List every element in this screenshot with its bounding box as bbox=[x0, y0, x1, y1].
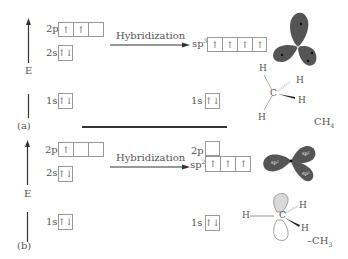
orbital-label-2p-hybrid-b: 2p bbox=[191, 146, 204, 156]
formula-ch3-sub: 3 bbox=[328, 241, 332, 248]
atom-h-3-a: H bbox=[298, 96, 306, 105]
orbital-cell: ↑↓ bbox=[59, 94, 72, 108]
formula-ch4-sub: 4 bbox=[330, 122, 334, 129]
orbital-box-1s-a: ↑↓ bbox=[58, 93, 73, 109]
formula-ch3-base: –CH bbox=[307, 235, 328, 246]
orbital-cell: ↑ bbox=[221, 157, 236, 171]
atom-c-a: C bbox=[270, 89, 277, 98]
formula-ch4-base: CH bbox=[314, 116, 330, 127]
atom-h-3-b: H bbox=[301, 224, 309, 233]
atom-h-1-a: H bbox=[259, 64, 267, 73]
orbital-box-2p-a: ↑ ↑ bbox=[58, 22, 104, 37]
orbital-label-1s-b: 1s bbox=[46, 217, 58, 227]
orbital-label-sp3: sp3 bbox=[192, 39, 207, 49]
formula-ch4: CH4 bbox=[314, 117, 334, 127]
hybridization-arrow-a bbox=[110, 42, 190, 48]
sp3-orbital-lobes-icon bbox=[270, 10, 348, 70]
orbital-cell: ↑ bbox=[74, 23, 89, 36]
orbital-box-2p-hybrid-b bbox=[205, 141, 220, 156]
orbital-label-sp2: sp2 bbox=[190, 160, 205, 170]
energy-label-b: E bbox=[24, 189, 31, 199]
orbital-cell bbox=[74, 143, 89, 156]
sp3-label-base: sp bbox=[192, 38, 204, 49]
hybridization-arrow-b bbox=[110, 164, 190, 170]
sp2-label-base: sp bbox=[190, 159, 202, 170]
orbital-cell: ↑ bbox=[236, 157, 251, 171]
orbital-box-sp2: ↑ ↑ ↑ bbox=[205, 156, 251, 172]
atom-c-b: C bbox=[279, 211, 286, 220]
orbital-cell: ↑↓ bbox=[206, 216, 219, 230]
orbital-cell: ↑ bbox=[206, 157, 221, 171]
orbital-label-1s-a: 1s bbox=[46, 96, 58, 106]
sp2-orbital-lobes-icon: sp² sp² sp² bbox=[258, 140, 348, 190]
sp2-lobe-label: sp² bbox=[302, 150, 310, 157]
orbital-label-2s-b: 2s bbox=[46, 168, 58, 178]
hybridization-label-b: Hybridization bbox=[116, 153, 185, 163]
panel-label-a: (a) bbox=[17, 121, 31, 131]
orbital-cell: ↑↓ bbox=[59, 167, 72, 181]
orbital-label-2s-a: 2s bbox=[46, 48, 58, 58]
orbital-label-2p-a: 2p bbox=[46, 24, 59, 34]
orbital-box-2p-b: ↑ bbox=[58, 142, 104, 157]
sp2-lobe-label: sp² bbox=[271, 159, 279, 166]
orbital-cell: ↑ bbox=[223, 38, 238, 51]
orbital-box-2s-a: ↑↓ bbox=[58, 45, 73, 61]
panel-divider bbox=[82, 126, 227, 128]
atom-h-2-a: H bbox=[296, 76, 304, 85]
atom-h-4-a: H bbox=[258, 113, 266, 122]
atom-h-1-b: H bbox=[242, 211, 250, 220]
orbital-box-sp3: ↑ ↑ ↑ ↑ bbox=[207, 37, 267, 52]
orbital-cell: ↑ bbox=[238, 38, 253, 51]
atom-h-2-b: H bbox=[299, 201, 307, 210]
energy-label-a: E bbox=[25, 66, 32, 76]
orbital-box-1s-hybrid-b: ↑↓ bbox=[205, 215, 220, 231]
sp2-lobe-label: sp² bbox=[302, 170, 310, 177]
orbital-cell: ↑ bbox=[59, 143, 74, 156]
hybridization-label-a: Hybridization bbox=[116, 31, 185, 41]
orbital-cell: ↑ bbox=[59, 23, 74, 36]
orbital-label-1s-hybrid-b: 1s bbox=[191, 218, 203, 228]
formula-ch3: –CH3 bbox=[307, 236, 332, 246]
orbital-cell: ↑ bbox=[253, 38, 267, 51]
orbital-label-2p-b: 2p bbox=[45, 145, 58, 155]
panel-label-b: (b) bbox=[17, 241, 31, 251]
orbital-box-2s-b: ↑↓ bbox=[58, 166, 73, 182]
orbital-cell bbox=[89, 143, 104, 156]
orbital-cell: ↑↓ bbox=[59, 46, 72, 60]
orbital-label-1s-hybrid-a: 1s bbox=[191, 96, 203, 106]
orbital-cell: ↑↓ bbox=[206, 94, 219, 108]
orbital-box-1s-b: ↑↓ bbox=[58, 214, 73, 230]
orbital-box-1s-hybrid-a: ↑↓ bbox=[205, 93, 220, 109]
orbital-cell: ↑↓ bbox=[59, 215, 72, 229]
orbital-cell bbox=[206, 142, 219, 155]
orbital-cell: ↑ bbox=[208, 38, 223, 51]
orbital-cell bbox=[89, 23, 104, 36]
